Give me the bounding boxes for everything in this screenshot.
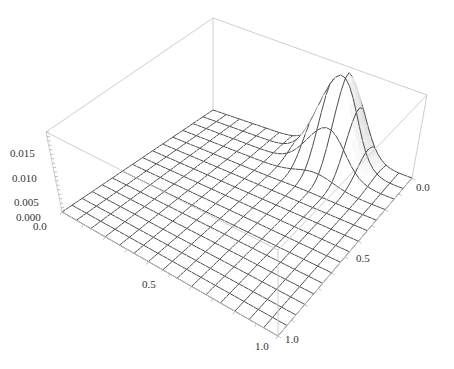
z-tick-label-0.005: 0.005 (14, 196, 39, 208)
right-axis-label-0.5: 0.5 (356, 252, 370, 264)
left-axis-label-0.5: 0.5 (142, 278, 156, 290)
left-axis-label-0.0: 0.0 (33, 220, 47, 232)
surface-mesh (62, 70, 412, 336)
surface-plot-3d: 0.015 0.010 0.005 0.000 0.0 0.5 1.0 0.0 … (0, 0, 454, 369)
right-axis-label-1.0: 1.0 (285, 333, 299, 345)
z-tick-label-0.015: 0.015 (10, 147, 35, 159)
right-axis-label-0.0: 0.0 (416, 181, 430, 193)
left-axis-label-1.0: 1.0 (255, 340, 269, 352)
z-tick-label-0.010: 0.010 (12, 172, 37, 184)
